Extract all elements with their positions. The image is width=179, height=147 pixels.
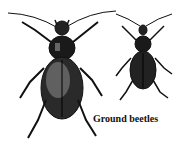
illustration: Ground beetles <box>0 0 179 147</box>
caption: Ground beetles <box>93 113 158 124</box>
beetles-drawing <box>0 0 179 147</box>
small-beetle <box>116 14 172 100</box>
